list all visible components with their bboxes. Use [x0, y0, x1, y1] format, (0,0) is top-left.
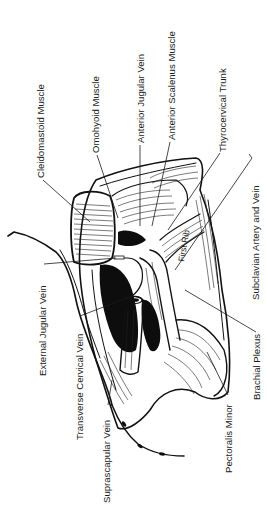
external-jugular-vein-drawing	[8, 232, 112, 405]
label-anterior-scalenus-muscle: Anterior Scalenus Muscle	[166, 31, 177, 140]
anatomy-diagram: Cleidomastoid Muscle Omohyoid Muscle Ant…	[0, 0, 267, 523]
label-transverse-cervical-vein: Transverse Cervical Vein	[74, 334, 85, 440]
cleidomastoid-muscle-drawing	[71, 192, 115, 265]
label-anterior-jugular-vein: Anterior Jugular Vein	[135, 54, 146, 143]
label-brachial-plexus: Brachial Plexus	[251, 334, 262, 400]
label-subclavian-artery-and-vein: Subclavian Artery and Vein	[250, 185, 261, 300]
label-omohyoid-muscle: Omohyoid Muscle	[90, 76, 101, 153]
label-cleidomastoid-muscle: Cleidomastoid Muscle	[35, 84, 46, 178]
label-pectoralis-minor: Pectoralis Minor	[223, 403, 234, 473]
label-external-jugular-vein: External Jugular Vein	[37, 285, 48, 376]
label-suprascapular-vein: Suprascapular Vein	[101, 420, 112, 503]
label-thyrocervical-trunk: Thyrocervical Trunk	[217, 68, 228, 152]
pectoralis-minor-drawing	[164, 320, 227, 396]
